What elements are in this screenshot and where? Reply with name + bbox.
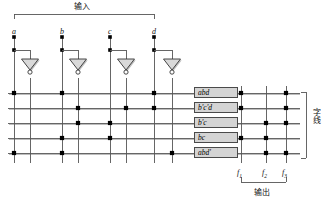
inverter-bubble-c [124, 70, 128, 74]
and-dot-bc-c[interactable] [108, 136, 112, 140]
and-dot-bpcpd-b-not[interactable] [76, 106, 80, 110]
or-dot-bc-f2[interactable] [264, 136, 268, 140]
inverter-bubble-b [76, 70, 80, 74]
pla-diagram: 输入 a b c d abd b'c'd b'c bc abd' f1 f2 f… [0, 0, 324, 202]
input-label-b: b [60, 28, 64, 36]
product-term-box-3[interactable]: b'c [194, 117, 238, 128]
product-term-box-2[interactable]: b'c'd [194, 102, 238, 113]
input-group-label: 输入 [74, 3, 90, 11]
and-dot-bpcpd-c-not[interactable] [124, 106, 128, 110]
pla-schematic-canvas [0, 0, 324, 202]
product-term-box-1[interactable]: abd [194, 87, 238, 98]
input-label-a: a [12, 28, 16, 36]
input-label-d: d [152, 28, 156, 36]
output-label-f2-sub: 2 [264, 173, 267, 179]
or-dot-bpcpd-f1[interactable] [239, 106, 243, 110]
output-label-f2: f2 [262, 168, 267, 179]
word-line-label: 字线 [310, 108, 321, 124]
product-term-box-4[interactable]: bc [194, 132, 238, 143]
and-dot-abdp-d-not[interactable] [170, 151, 174, 155]
or-dot-bpc-f3[interactable] [284, 121, 288, 125]
inverter-bubble-a [28, 70, 32, 74]
and-dot-abd-d[interactable] [152, 91, 156, 95]
inverter-bubble-d [170, 70, 174, 74]
output-label-f1-sub: 1 [239, 173, 242, 179]
output-label-f3: f3 [282, 168, 287, 179]
output-label-f3-sub: 3 [284, 173, 287, 179]
input-label-c: c [108, 28, 112, 36]
and-dot-abd-a[interactable] [12, 91, 16, 95]
or-dot-abd-f3[interactable] [284, 91, 288, 95]
or-dot-abdp-f2[interactable] [264, 151, 268, 155]
and-dot-bc-b[interactable] [60, 136, 64, 140]
and-dot-bpcpd-d[interactable] [152, 106, 156, 110]
or-dot-bpcpd-f3[interactable] [284, 106, 288, 110]
or-dot-abd-f1[interactable] [239, 91, 243, 95]
output-label-f1: f1 [237, 168, 242, 179]
or-dot-bc-f1[interactable] [239, 136, 243, 140]
and-dot-bpc-b-not[interactable] [76, 121, 80, 125]
product-term-box-5[interactable]: abd' [194, 147, 238, 158]
and-dot-abd-b[interactable] [60, 91, 64, 95]
and-dot-abdp-a[interactable] [12, 151, 16, 155]
and-dot-bpc-c[interactable] [108, 121, 112, 125]
and-dot-abdp-b[interactable] [60, 151, 64, 155]
or-dot-abdp-f3[interactable] [284, 151, 288, 155]
or-dot-bpc-f2[interactable] [264, 121, 268, 125]
output-group-label: 输出 [254, 189, 270, 197]
